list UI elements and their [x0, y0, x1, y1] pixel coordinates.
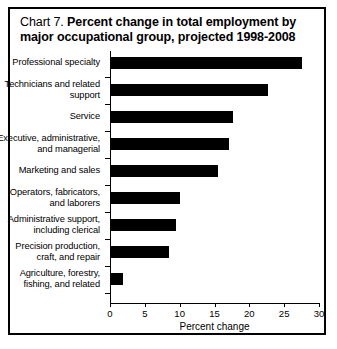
x-axis-tick-label: 5	[133, 308, 157, 319]
category-label: Administrative support, including cleric…	[0, 214, 100, 234]
category-label: Agriculture, forestry, fishing, and rela…	[0, 268, 100, 288]
bar	[111, 111, 233, 123]
y-axis-tick	[105, 293, 110, 294]
x-axis-tick	[110, 303, 111, 307]
category-label: Operators, fabricators, and laborers	[0, 187, 100, 207]
bar	[111, 138, 229, 150]
y-axis-tick	[105, 131, 110, 132]
y-axis-tick	[105, 239, 110, 240]
x-axis-tick	[145, 303, 146, 307]
y-axis-tick	[105, 212, 110, 213]
x-axis-tick-label: 15	[203, 308, 227, 319]
x-axis-tick	[319, 303, 320, 307]
x-axis-tick	[284, 303, 285, 307]
bar	[111, 57, 302, 69]
x-axis-tick-label: 0	[98, 308, 122, 319]
x-axis-tick	[180, 303, 181, 307]
y-axis-tick	[105, 266, 110, 267]
bar	[111, 165, 218, 177]
category-label: Professional specialty	[0, 57, 100, 67]
plot-area: Professional specialtyTechnicians and re…	[10, 9, 324, 333]
bar	[111, 219, 176, 231]
y-axis-tick	[105, 77, 110, 78]
category-label: Technicians and related support	[0, 79, 100, 99]
y-axis-tick	[105, 104, 110, 105]
category-label: Marketing and sales	[0, 165, 100, 175]
x-axis-tick	[215, 303, 216, 307]
x-axis-tick-label: 20	[237, 308, 261, 319]
x-axis-tick	[249, 303, 250, 307]
chart-frame: Chart 7. Percent change in total employm…	[8, 7, 326, 335]
bar	[111, 273, 123, 285]
bar	[111, 192, 180, 204]
category-label: Executive, administrative, and manageria…	[0, 133, 100, 153]
category-label: Precision production, craft, and repair	[0, 241, 100, 261]
x-axis-tick-label: 10	[168, 308, 192, 319]
category-label: Service	[0, 111, 100, 121]
y-axis-tick	[105, 185, 110, 186]
x-axis-tick-label: 30	[307, 308, 331, 319]
bar	[111, 246, 169, 258]
bar	[111, 84, 268, 96]
x-axis-title: Percent change	[110, 321, 319, 332]
x-axis-tick-label: 25	[272, 308, 296, 319]
y-axis-tick	[105, 158, 110, 159]
